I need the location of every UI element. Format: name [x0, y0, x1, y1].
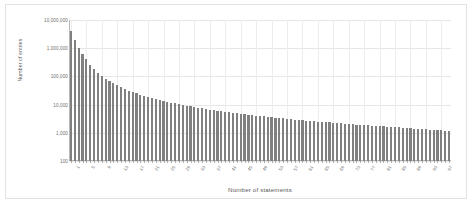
x-axis-tick-label: 65 [323, 165, 330, 172]
bar [209, 110, 211, 161]
x-axis-tick-label: 49 [262, 165, 269, 172]
bar [332, 123, 334, 161]
y-axis-tick-label: 10,000,000 [20, 18, 68, 23]
bar [274, 118, 276, 161]
bar [174, 103, 176, 161]
bar [224, 112, 226, 161]
bar-series [69, 20, 451, 161]
x-axis-tick-mark [206, 161, 207, 163]
x-axis-tick-mark [368, 161, 369, 163]
x-axis-tick-label: 25 [169, 165, 176, 172]
x-axis-tick-label: 57 [292, 165, 299, 172]
x-axis-tick-mark [183, 161, 184, 163]
bar [382, 126, 384, 161]
bar [251, 115, 253, 161]
bar [267, 117, 269, 161]
bar [409, 128, 411, 161]
x-axis-tick-mark [326, 161, 327, 163]
bar [286, 119, 288, 161]
x-axis-tick-mark [256, 161, 257, 163]
x-axis-tick-mark [391, 161, 392, 163]
x-axis-tick-mark [113, 161, 114, 163]
x-axis-tick-mark [98, 161, 99, 163]
x-axis-tick-label: 1 [75, 165, 81, 170]
x-axis-tick-mark [102, 161, 103, 163]
bar [132, 92, 134, 161]
x-axis-tick-mark [233, 161, 234, 163]
x-axis-tick-mark [125, 161, 126, 163]
x-axis-tick-mark [137, 161, 138, 163]
x-axis-tick-mark [202, 161, 203, 163]
bar [166, 102, 168, 161]
bar [255, 116, 257, 161]
x-axis-tick-mark [106, 161, 107, 163]
y-axis-tick-label: 1,000,000 [20, 46, 68, 51]
x-axis-tick-mark [171, 161, 172, 163]
bar [298, 120, 300, 161]
bar [139, 95, 141, 161]
bar [413, 129, 415, 161]
x-axis-tick-mark [383, 161, 384, 163]
bar [352, 124, 354, 161]
bar [93, 69, 95, 161]
bar [213, 110, 215, 161]
bar [309, 121, 311, 161]
x-axis-tick-mark [337, 161, 338, 163]
bar [282, 118, 284, 161]
x-axis-tick-mark [360, 161, 361, 163]
chart-figure: Number of entries 10,000,0001,000,000100… [0, 0, 472, 203]
y-axis-tick-label: 1,000 [20, 130, 68, 135]
x-axis-tick-label: 53 [277, 165, 284, 172]
x-axis-tick-label: 13 [123, 165, 130, 172]
chart-frame: Number of entries 10,000,0001,000,000100… [5, 4, 467, 199]
x-axis-tick-label: 73 [354, 165, 361, 172]
bar [390, 127, 392, 161]
x-axis-tick-mark [395, 161, 396, 163]
bar [421, 129, 423, 161]
bar [135, 93, 137, 161]
x-axis-tick-label: 9 [106, 165, 112, 170]
x-axis-tick-label: 37 [215, 165, 222, 172]
x-axis-tick-mark [129, 161, 130, 163]
x-axis-tick-mark [179, 161, 180, 163]
x-axis-tick-mark [268, 161, 269, 163]
bar [201, 108, 203, 161]
bar [398, 127, 400, 161]
x-axis-tick-mark [191, 161, 192, 163]
bar [240, 114, 242, 161]
x-axis-tick-mark [291, 161, 292, 163]
bar [243, 114, 245, 161]
x-axis-title: Number of statements [69, 186, 451, 193]
bar [147, 97, 149, 161]
x-axis-tick-mark [90, 161, 91, 163]
bar [321, 122, 323, 161]
x-axis-tick-mark [414, 161, 415, 163]
bar [379, 126, 381, 161]
x-axis-tick-mark [221, 161, 222, 163]
x-axis-tick-mark [364, 161, 365, 163]
x-axis-tick-mark [86, 161, 87, 163]
x-axis-tick-mark [83, 161, 84, 163]
bar [429, 130, 431, 161]
x-axis-tick-mark [264, 161, 265, 163]
x-axis-tick-mark [295, 161, 296, 163]
x-axis-tick-mark [426, 161, 427, 163]
x-axis-tick-mark [248, 161, 249, 163]
x-axis-tick-mark [198, 161, 199, 163]
bar [124, 89, 126, 161]
x-axis-tick-label: 45 [246, 165, 253, 172]
x-axis-tick-mark [214, 161, 215, 163]
bar [355, 125, 357, 162]
bar [375, 126, 377, 161]
x-axis-tick-mark [410, 161, 411, 163]
x-axis-tick-mark [156, 161, 157, 163]
bar [101, 76, 103, 161]
x-axis-tick-mark [287, 161, 288, 163]
x-axis-tick-mark [167, 161, 168, 163]
bar [328, 122, 330, 161]
x-axis-tick-mark [302, 161, 303, 163]
x-axis-tick-label: 17 [138, 165, 145, 172]
x-axis-tick-mark [430, 161, 431, 163]
x-axis-tick-mark [225, 161, 226, 163]
x-axis-tick-mark [399, 161, 400, 163]
